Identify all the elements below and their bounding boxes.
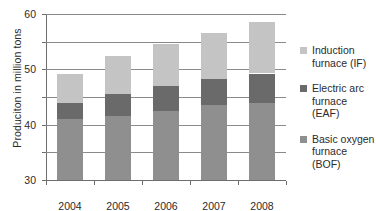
bar-segment-if-2006[interactable]	[153, 44, 179, 86]
bar-segment-eaf-2006[interactable]	[153, 86, 179, 111]
legend-entry-1[interactable]: Electric arc furnace (EAF)	[300, 82, 376, 120]
legend-swatch-2	[300, 136, 307, 143]
bar-segment-eaf-2004[interactable]	[57, 103, 83, 120]
x-tick-label-2007: 2007	[202, 200, 225, 211]
legend: Induction furnace (IF)Electric arc furna…	[300, 44, 376, 183]
x-tick-label-2005: 2005	[106, 200, 129, 211]
bar-segment-eaf-2005[interactable]	[105, 94, 131, 116]
legend-swatch-0	[300, 47, 307, 54]
bar-group-2006[interactable]	[153, 14, 179, 180]
bars-layer	[46, 14, 286, 180]
bar-group-2004[interactable]	[57, 14, 83, 180]
bar-segment-eaf-2007[interactable]	[201, 79, 227, 105]
legend-label-1: Electric arc furnace (EAF)	[312, 82, 376, 120]
y-tick-label-60: 60	[24, 8, 36, 20]
x-tick-mark-0	[46, 181, 47, 185]
gridline-0	[46, 180, 286, 181]
x-tick-mark-1	[94, 181, 95, 185]
x-tick-label-2006: 2006	[154, 200, 177, 211]
x-tick-mark-4	[238, 181, 239, 185]
x-tick-mark-end	[286, 181, 287, 185]
stacked-bar-chart: Produciton in million tons 6050403020100…	[0, 0, 376, 211]
bar-segment-bof-2005[interactable]	[105, 116, 131, 180]
bar-segment-if-2005[interactable]	[105, 56, 131, 95]
x-tick-label-2004: 2004	[58, 200, 81, 211]
y-tick-label-30: 30	[24, 174, 36, 186]
x-tick-mark-2	[142, 181, 143, 185]
bar-segment-if-2004[interactable]	[57, 74, 83, 103]
bar-segment-if-2008[interactable]	[249, 22, 275, 73]
bar-segment-eaf-2008[interactable]	[249, 74, 275, 103]
bar-group-2008[interactable]	[249, 14, 275, 180]
bar-segment-if-2007[interactable]	[201, 33, 227, 79]
legend-swatch-1	[300, 85, 307, 92]
bar-segment-bof-2007[interactable]	[201, 105, 227, 180]
y-tick-label-40: 40	[24, 119, 36, 131]
legend-label-2: Basic oxygen furnace (BOF)	[312, 133, 376, 171]
legend-entry-2[interactable]: Basic oxygen furnace (BOF)	[300, 133, 376, 171]
bar-group-2007[interactable]	[201, 14, 227, 180]
bar-segment-bof-2008[interactable]	[249, 103, 275, 180]
plot-area: 6050403020100 20042005200620072008	[46, 14, 286, 180]
bar-group-2005[interactable]	[105, 14, 131, 180]
legend-entry-0[interactable]: Induction furnace (IF)	[300, 44, 376, 69]
bar-segment-bof-2004[interactable]	[57, 119, 83, 180]
x-tick-mark-3	[190, 181, 191, 185]
bar-segment-bof-2006[interactable]	[153, 111, 179, 180]
y-tick-label-50: 50	[24, 63, 36, 75]
y-axis-title: Produciton in million tons	[11, 8, 23, 168]
x-tick-label-2008: 2008	[250, 200, 273, 211]
legend-label-0: Induction furnace (IF)	[312, 44, 376, 69]
